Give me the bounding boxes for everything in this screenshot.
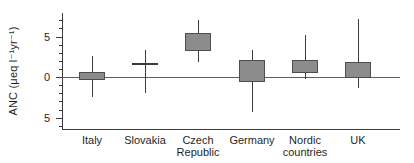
x-category-label-2: Czech Republic — [167, 135, 229, 158]
y-minor-tick — [59, 110, 62, 111]
plot-area: 505ItalySlovakiaCzech RepublicGermanyNor… — [0, 0, 414, 163]
y-minor-tick — [59, 85, 62, 86]
y-minor-tick — [59, 126, 62, 127]
x-axis-line — [62, 129, 400, 130]
box-2 — [185, 33, 211, 51]
whisker-line-1 — [145, 50, 146, 93]
y-minor-tick — [59, 28, 62, 29]
x-category-label-5: UK — [327, 135, 389, 147]
y-major-tick — [56, 77, 62, 78]
y-major-tick — [56, 118, 62, 119]
y-minor-tick — [59, 101, 62, 102]
y-minor-tick — [59, 53, 62, 54]
y-major-tick — [56, 37, 62, 38]
y-axis-line — [62, 13, 63, 129]
y-minor-tick — [59, 20, 62, 21]
y-tick-label: 5 — [32, 31, 50, 43]
y-minor-tick — [59, 45, 62, 46]
median-line-1 — [132, 63, 158, 65]
y-minor-tick — [59, 61, 62, 62]
y-tick-label: 0 — [32, 71, 50, 83]
y-minor-tick — [59, 93, 62, 94]
box-3 — [239, 60, 265, 82]
y-minor-tick — [59, 69, 62, 70]
y-tick-label: 5 — [32, 112, 50, 124]
anc-boxplot-figure: ANC (μeq l⁻¹yr⁻¹) 505ItalySlovakiaCzech … — [0, 0, 414, 163]
box-4 — [292, 60, 318, 73]
box-5 — [345, 62, 371, 78]
box-0 — [79, 72, 105, 80]
